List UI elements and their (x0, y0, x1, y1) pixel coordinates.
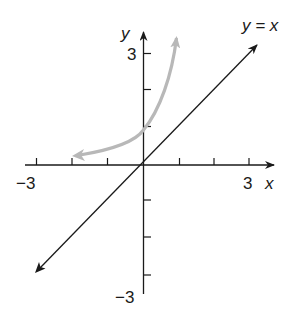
y-max-label: 3 (127, 45, 136, 64)
y-ticks (144, 54, 152, 276)
y-axis-label: y (120, 24, 131, 43)
line-y-equals-x (40, 45, 257, 268)
x-max-label: 3 (243, 174, 252, 193)
line-label: y = x (241, 16, 279, 35)
x-axis-label: x (264, 174, 274, 193)
graph: y 3 −3 3 x −3 y = x (0, 0, 303, 324)
y-min-label: −3 (115, 288, 134, 307)
x-min-label: −3 (16, 174, 35, 193)
